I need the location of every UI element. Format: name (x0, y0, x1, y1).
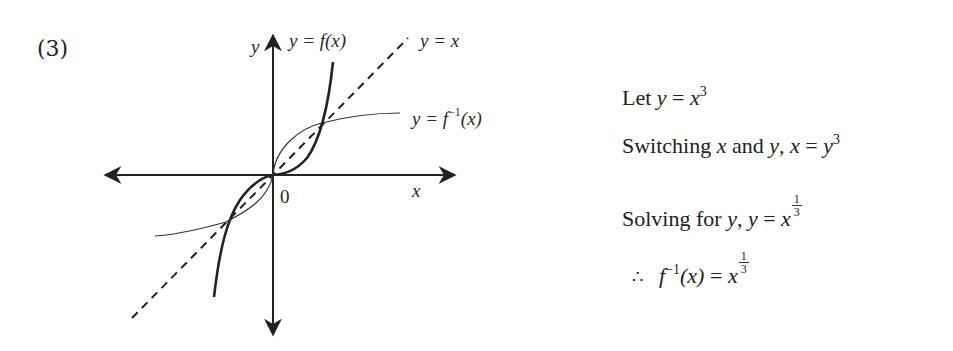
math-var: x (790, 133, 800, 158)
math-var: y (657, 85, 667, 110)
step-text: Let (622, 85, 657, 110)
math-eq: = (704, 263, 727, 288)
f-inverse-curve-label: y = f−1(x) (412, 108, 482, 130)
math-base: x (728, 263, 738, 288)
math-base: y (823, 133, 833, 158)
math-exp: −1 (665, 262, 680, 277)
math-var: y (748, 206, 758, 231)
x-axis-label: x (412, 180, 420, 202)
math-exp: 3 (700, 84, 707, 99)
step-text: and (727, 133, 770, 158)
fraction-exponent: 13 (739, 250, 749, 275)
f-inverse-label-prefix: y = (412, 108, 443, 129)
math-var: y (769, 133, 779, 158)
step-text: , (779, 133, 790, 158)
step-text: , (737, 206, 748, 231)
fraction-denominator: 3 (792, 206, 802, 218)
step-text: Solving for (622, 206, 727, 231)
fraction-exponent: 13 (792, 193, 802, 218)
f-inverse-label-exp: −1 (448, 105, 461, 119)
math-var: y (727, 206, 737, 231)
line-y-equals-x (132, 38, 408, 318)
step-solve: Solving for y, y = x13 (622, 193, 802, 232)
math-base: x (781, 206, 791, 231)
math-exp: 3 (833, 132, 840, 147)
math-arg: (x) (680, 263, 704, 288)
step-text: Switching (622, 133, 717, 158)
math-var: x (717, 133, 727, 158)
math-eq: = (758, 206, 781, 231)
f-curve-label: y = f(x) (289, 30, 346, 52)
step-switch: Switching x and y, x = y3 (622, 133, 840, 159)
identity-line-label: y = x (420, 30, 459, 52)
step-conclusion: ∴f−1(x) = x13 (632, 250, 749, 289)
step-let: Let y = x3 (622, 85, 707, 111)
f-inverse-label-arg: (x) (461, 108, 482, 129)
math-eq: = (800, 133, 823, 158)
therefore-symbol: ∴ (632, 267, 643, 287)
math-eq: = (667, 85, 690, 110)
graph (0, 0, 953, 351)
fraction-denominator: 3 (739, 263, 749, 275)
y-axis-label: y (251, 36, 259, 58)
math-base: x (690, 85, 700, 110)
origin-label: 0 (280, 186, 290, 208)
